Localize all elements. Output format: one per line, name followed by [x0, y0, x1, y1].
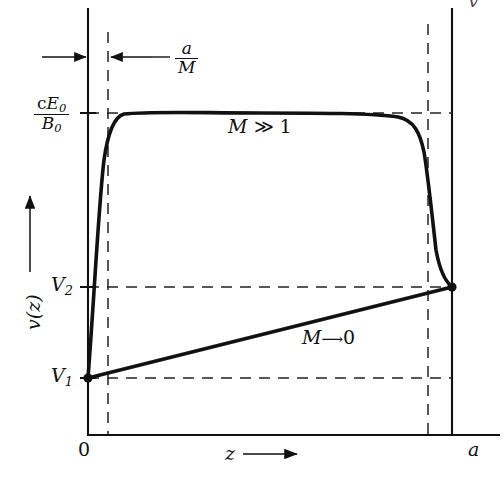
- v1-subscript: 1: [65, 374, 73, 389]
- y-axis-title: v(z): [24, 294, 43, 330]
- x-axis-title: z: [225, 444, 235, 463]
- label-boundary-layer-width: a M: [175, 40, 198, 77]
- axis-lines: [88, 8, 500, 436]
- a-over-M-numerator: a: [175, 40, 198, 58]
- label-curve-M-tends-0: M⟶0: [302, 328, 355, 347]
- plot-canvas: [0, 0, 504, 482]
- v2-base: V: [51, 273, 65, 295]
- label-curve-M-much-greater-1: M ≫ 1: [228, 117, 292, 136]
- x-tick-origin-text: 0: [78, 438, 90, 460]
- a-over-M-denominator: M: [175, 58, 198, 77]
- x-tick-label-a: a: [468, 440, 479, 459]
- label-v1: V1: [51, 366, 73, 389]
- mgg-value: 1: [280, 115, 292, 137]
- v1-base: V: [51, 364, 65, 386]
- curve-M-much-greater-than-1: [88, 112, 452, 378]
- v2-subscript: 2: [65, 283, 73, 298]
- y-axis-title-text: v(z): [22, 294, 44, 330]
- m0-relation: ⟶: [321, 330, 343, 348]
- label-v2: V2: [51, 275, 73, 298]
- plateau-numerator: c0E0: [34, 95, 69, 114]
- m0-base: M: [302, 326, 321, 348]
- plateau-denominator: B0: [34, 114, 69, 134]
- curve-M-tends-to-0: [88, 287, 452, 378]
- x-axis-title-text: z: [225, 442, 235, 464]
- mgg-relation: ≫: [254, 115, 274, 137]
- marker-point-v2: [447, 282, 456, 291]
- marker-point-v1: [83, 373, 92, 382]
- m0-value: 0: [343, 326, 355, 348]
- x-tick-a-text: a: [468, 438, 479, 460]
- mgg-base: M: [228, 115, 247, 137]
- label-plateau-cE0-over-B0: c0E0 B0: [34, 95, 69, 135]
- corner-label-v: v: [468, 0, 479, 10]
- reference-lines: [88, 24, 452, 435]
- figure-velocity-profile: a M c0E0 B0 V2 V1 M ≫ 1 M⟶0 v(z) z 0 a: [0, 0, 504, 482]
- corner-label-text: v: [468, 0, 479, 11]
- x-tick-label-origin: 0: [78, 440, 90, 459]
